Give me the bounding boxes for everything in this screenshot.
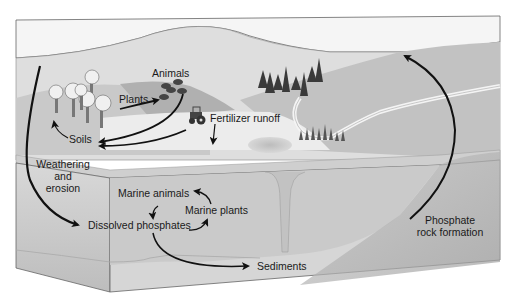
label-marine-animals: Marine animals — [118, 187, 189, 199]
label-plants: Plants — [119, 93, 148, 105]
label-marine-plants: Marine plants — [185, 204, 248, 216]
runoff-pond — [248, 137, 292, 153]
phosphorus-cycle-diagram: Animals Plants Soils Fertilizer runoff W… — [0, 0, 507, 308]
landscape-illustration — [0, 0, 507, 308]
label-sediments: Sediments — [257, 260, 307, 272]
label-dissolved-phosphates: Dissolved phosphates — [88, 219, 191, 231]
label-fertilizer-runoff: Fertilizer runoff — [210, 112, 280, 124]
label-animals: Animals — [152, 67, 189, 79]
label-soils: Soils — [69, 133, 92, 145]
label-phosphate-rock-formation: Phosphate rock formation — [410, 214, 490, 238]
label-weathering-erosion: Weathering and erosion — [33, 158, 93, 194]
